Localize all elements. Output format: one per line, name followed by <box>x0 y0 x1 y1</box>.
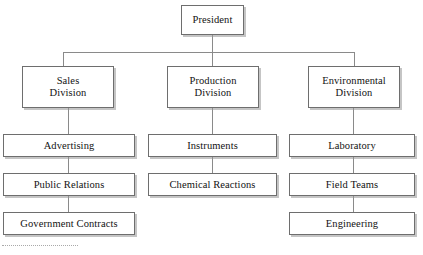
node-engineering[interactable]: Engineering <box>289 212 415 235</box>
node-advertising-label: Advertising <box>42 140 97 152</box>
node-chemical-reactions-label: Chemical Reactions <box>167 179 257 191</box>
node-president[interactable]: President <box>181 5 244 35</box>
node-sales-division-label: Sales Division <box>48 75 89 99</box>
node-public-relations-label: Public Relations <box>32 179 107 191</box>
connector-field-teams-to-engineering <box>353 196 354 212</box>
connector-bus-to-production <box>212 52 213 66</box>
node-laboratory-label: Laboratory <box>326 140 378 152</box>
connector-horizontal-bus <box>63 52 354 53</box>
connector-public-relations-to-government-contracts <box>68 196 69 212</box>
node-environmental-division[interactable]: Environmental Division <box>308 66 400 108</box>
node-field-teams-label: Field Teams <box>324 179 380 191</box>
node-chemical-reactions[interactable]: Chemical Reactions <box>148 173 277 196</box>
node-laboratory[interactable]: Laboratory <box>289 134 415 157</box>
node-environmental-division-label: Environmental Division <box>320 75 388 99</box>
node-president-label: President <box>191 14 235 26</box>
connector-laboratory-to-field-teams <box>353 157 354 173</box>
connector-bus-to-environmental <box>354 52 355 66</box>
connector-instruments-to-chemical-reactions <box>212 157 213 173</box>
node-government-contracts[interactable]: Government Contracts <box>3 212 135 235</box>
org-chart-canvas: President Sales Division Production Divi… <box>0 0 423 255</box>
node-production-division-label: Production Division <box>187 75 238 99</box>
node-instruments-label: Instruments <box>185 140 240 152</box>
node-sales-division[interactable]: Sales Division <box>22 66 114 108</box>
connector-sales-to-advertising <box>68 108 69 134</box>
connector-president-stem <box>212 35 213 53</box>
node-advertising[interactable]: Advertising <box>3 134 135 157</box>
node-public-relations[interactable]: Public Relations <box>3 173 135 196</box>
node-government-contracts-label: Government Contracts <box>18 218 119 230</box>
node-production-division[interactable]: Production Division <box>167 66 259 108</box>
node-instruments[interactable]: Instruments <box>148 134 277 157</box>
connector-production-to-instruments <box>212 108 213 134</box>
node-engineering-label: Engineering <box>324 218 380 230</box>
connector-bus-to-sales <box>63 52 64 66</box>
node-field-teams[interactable]: Field Teams <box>289 173 415 196</box>
page-scan-artifact <box>2 245 78 246</box>
connector-advertising-to-public-relations <box>68 157 69 173</box>
connector-environmental-to-laboratory <box>353 108 354 134</box>
